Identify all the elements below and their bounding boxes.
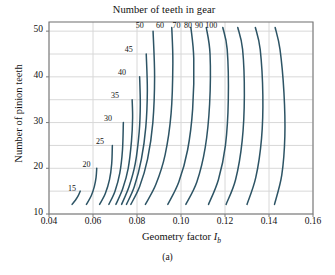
x-tick-label: 0.14 xyxy=(249,216,289,226)
x-tick-label: 0.06 xyxy=(73,216,113,226)
contour-curve-50 xyxy=(131,31,155,204)
y-tick-label: 40 xyxy=(19,70,43,80)
contour-curve-25 xyxy=(100,145,113,204)
curve-label-20: 20 xyxy=(76,160,96,169)
contour-curve-35 xyxy=(116,100,133,205)
curve-label-100: 100 xyxy=(201,21,221,30)
contour-curve-20 xyxy=(86,168,96,204)
y-tick-label: 20 xyxy=(19,161,43,171)
y-tick-label: 50 xyxy=(19,24,43,34)
curve-label-35: 35 xyxy=(105,91,125,100)
x-axis-label: Geometry factor Ib xyxy=(49,231,314,245)
curve-label-45: 45 xyxy=(119,45,139,54)
contour-curve-15 xyxy=(72,191,80,204)
x-tick-label: 0.12 xyxy=(205,216,245,226)
x-tick-label: 0.08 xyxy=(117,216,157,226)
y-tick-label: 10 xyxy=(19,207,43,217)
curve-label-40: 40 xyxy=(112,68,132,77)
figure-geometry-factor: Number of teeth in gear Number of pinion… xyxy=(0,0,335,275)
x-tick-label: 0.04 xyxy=(29,216,69,226)
curve-label-15: 15 xyxy=(62,184,82,193)
figure-caption: (a) xyxy=(0,252,335,262)
curve-label-30: 30 xyxy=(98,114,118,123)
x-tick-label: 0.16 xyxy=(293,216,333,226)
curve-label-50: 50 xyxy=(130,21,150,30)
x-axis-subscript: b xyxy=(217,236,221,245)
x-tick-label: 0.10 xyxy=(161,216,201,226)
x-axis-label-text: Geometry factor xyxy=(142,231,214,242)
curve-label-25: 25 xyxy=(90,137,110,146)
y-tick-label: 30 xyxy=(19,116,43,126)
